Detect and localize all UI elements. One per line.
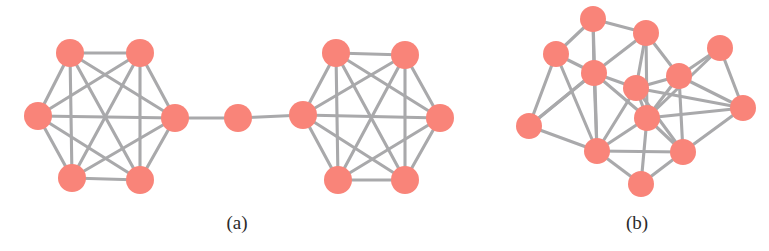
graph-node [707, 35, 733, 61]
graph-node [58, 164, 86, 192]
graph-node [391, 41, 419, 69]
graph-node [516, 113, 542, 139]
graph-edge [636, 88, 743, 108]
graph-edge [38, 116, 175, 118]
graph-node [730, 95, 756, 121]
graph-node [322, 39, 350, 67]
graph-node [580, 6, 606, 32]
panel-caption-a: (a) [187, 212, 287, 234]
panel-caption-b: (b) [587, 212, 687, 234]
graph-edge [647, 108, 743, 118]
graph-node [161, 104, 189, 132]
graph-node [426, 104, 454, 132]
graph-node [543, 41, 569, 67]
graph-node [289, 101, 317, 129]
graph-node [584, 138, 610, 164]
figure-container: (a) (b) [0, 0, 769, 251]
graph-node [633, 20, 659, 46]
graph-node [324, 166, 352, 194]
graph-node [126, 39, 154, 67]
graph-node [391, 166, 419, 194]
graph-node [666, 63, 692, 89]
graph-node [623, 75, 649, 101]
graph-node [670, 139, 696, 165]
graph-node [581, 60, 607, 86]
graph-node [224, 104, 252, 132]
graph-node [628, 171, 654, 197]
graph-node [126, 166, 154, 194]
graph-node [24, 102, 52, 130]
graph-node [56, 39, 84, 67]
graph-edge [336, 53, 338, 180]
graph-node [634, 105, 660, 131]
